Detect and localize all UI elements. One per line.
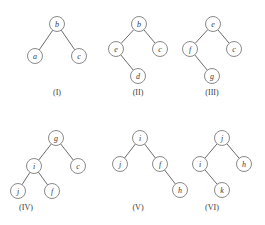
tree-edge-e-d xyxy=(121,55,134,70)
tree-node-e: e xyxy=(206,17,221,32)
tree-caption-5: (V) xyxy=(132,203,143,212)
tree-edge-j-h xyxy=(227,144,239,159)
tree-edge-i-f xyxy=(145,144,156,158)
tree-canvas: efcg xyxy=(172,14,252,80)
tree-caption-6: (VI) xyxy=(205,203,219,212)
tree-caption-3: (III) xyxy=(205,88,218,97)
tree-edge-b-e xyxy=(121,30,134,44)
tree-node-b: b xyxy=(50,17,65,32)
node-label: c xyxy=(232,45,236,54)
binary-tree-figure-group: bac(I)becd(II)efcg(III)gicjf(IV)ijfh(V)j… xyxy=(0,0,265,225)
tree-edge-b-c xyxy=(144,30,155,44)
binary-tree-4: gicjf xyxy=(8,128,92,198)
node-label: c xyxy=(158,45,162,54)
tree-canvas: bac xyxy=(18,14,96,80)
node-label: c xyxy=(76,162,80,171)
tree-node-c: c xyxy=(227,42,242,57)
binary-tree-1: bac xyxy=(18,14,96,80)
binary-tree-6: jihk xyxy=(186,128,262,198)
node-label: h xyxy=(178,186,182,195)
tree-node-c: c xyxy=(72,49,87,64)
tree-node-i: i xyxy=(27,159,42,174)
tree-edge-i-f xyxy=(38,172,47,185)
tree-node-f: f xyxy=(45,184,60,199)
tree-node-i: i xyxy=(193,157,208,172)
tree-node-f: f xyxy=(183,42,198,57)
tree-node-f: f xyxy=(153,157,168,172)
tree-node-e: e xyxy=(109,42,124,57)
node-label: a xyxy=(33,52,37,61)
tree-caption-4: (IV) xyxy=(19,203,33,212)
node-label: h xyxy=(242,160,246,169)
tree-edge-e-f xyxy=(195,30,208,44)
tree-node-g: g xyxy=(49,131,64,146)
binary-tree-5: ijfh xyxy=(110,128,190,198)
tree-node-j: j xyxy=(215,131,230,146)
binary-tree-3: efcg xyxy=(172,14,252,80)
tree-node-g: g xyxy=(205,69,220,84)
tree-caption-1: (I) xyxy=(53,88,61,97)
tree-node-c: c xyxy=(71,159,86,174)
node-label: b xyxy=(137,20,141,29)
tree-canvas: ijfh xyxy=(110,128,190,198)
node-label: b xyxy=(55,20,59,29)
binary-tree-2: becd xyxy=(98,14,178,80)
tree-edge-e-c xyxy=(218,30,229,44)
node-label: g xyxy=(210,72,214,81)
tree-node-d: d xyxy=(131,69,146,84)
tree-edge-f-g xyxy=(195,55,208,70)
tree-node-j: j xyxy=(11,184,26,199)
node-label: i xyxy=(33,162,35,171)
tree-node-h: h xyxy=(237,157,252,172)
tree-node-j: j xyxy=(113,157,128,172)
tree-edge-j-i xyxy=(205,144,217,159)
node-label: k xyxy=(220,186,224,195)
node-label: g xyxy=(54,134,58,143)
tree-edge-i-j xyxy=(22,172,30,184)
tree-node-k: k xyxy=(215,183,230,198)
tree-edge-b-c xyxy=(61,30,75,50)
node-label: i xyxy=(139,134,141,143)
tree-edge-f-h xyxy=(165,170,176,184)
node-label: e xyxy=(211,20,215,29)
tree-caption-2: (II) xyxy=(133,88,144,97)
tree-canvas: jihk xyxy=(186,128,262,198)
node-label: c xyxy=(77,52,81,61)
tree-edge-i-k xyxy=(205,170,217,185)
tree-edge-b-a xyxy=(39,30,53,50)
node-label: i xyxy=(199,160,201,169)
tree-node-a: a xyxy=(28,49,43,64)
tree-canvas: gicjf xyxy=(8,128,92,198)
tree-edge-i-j xyxy=(125,144,136,158)
tree-edge-g-i xyxy=(39,144,52,160)
tree-edge-g-c xyxy=(61,144,74,160)
tree-node-c: c xyxy=(153,42,168,57)
tree-canvas: becd xyxy=(98,14,178,80)
node-label: e xyxy=(114,45,118,54)
tree-node-b: b xyxy=(132,17,147,32)
tree-node-i: i xyxy=(133,131,148,146)
